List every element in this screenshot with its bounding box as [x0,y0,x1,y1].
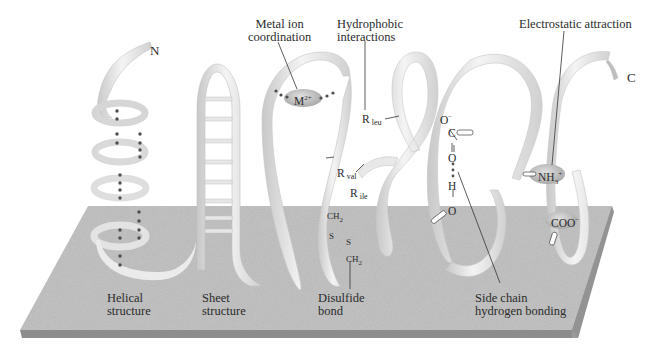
ch2-top-label: CH2 [327,210,343,226]
metal-ion-symbol: M2+ [294,92,312,107]
ammonium-label: NH3+ [538,168,562,188]
oxygen-hydroxyl-label: O [448,205,456,217]
r-ile-label: Rile [350,187,368,203]
platform-front-edge [20,330,572,338]
sulfur-left-label: S [329,230,334,242]
label-side-chain-hydrogen-bonding: Side chain hydrogen bonding [475,292,566,318]
label-hydrophobic-interactions: Hydrophobic interactions [337,18,403,44]
hbond-dots [452,163,455,178]
label-electrostatic-attraction: Electrostatic attraction [519,18,632,31]
hydrogen-label: H [448,180,456,192]
label-disulfide-bond: Disulfide bond [318,292,365,318]
r-leu-label: Rleu [362,113,381,129]
r-val-label: Rval [337,167,356,183]
protein-interaction-diagram: N C Metal ion coordination Hydrophobic i… [0,0,662,351]
o-minus-label: O− [440,111,452,126]
c-terminus-label: C [627,70,636,86]
sulfur-right-label: S [346,236,351,248]
oxygen-double-label: O [448,152,456,164]
carboxylate-label: COO− [551,214,579,229]
label-helical-structure: Helical structure [107,292,151,318]
label-metal-ion-coordination: Metal ion coordination [248,18,311,44]
label-sheet-structure: Sheet structure [202,292,246,318]
ch2-bottom-label: CH2 [346,253,362,269]
carbon-label: C [448,127,456,139]
n-terminus-label: N [150,43,159,59]
